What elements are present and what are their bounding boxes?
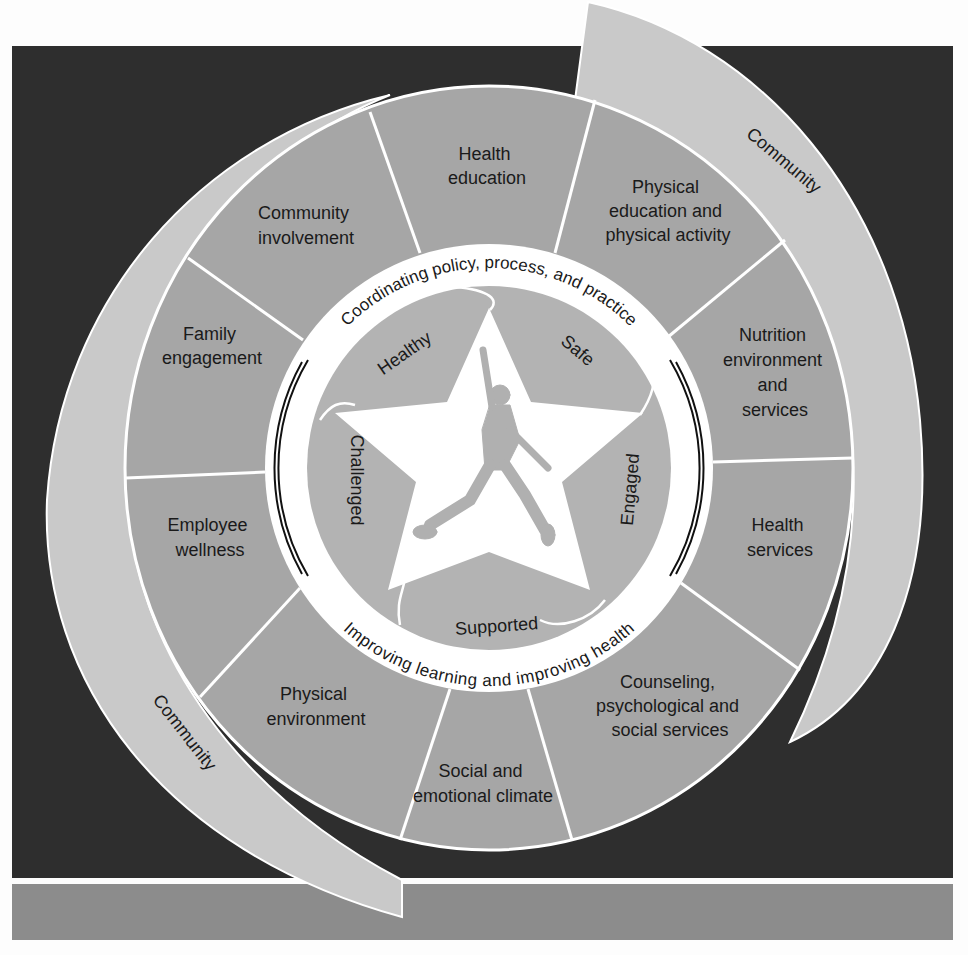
- tenet-challenged: Challenged: [347, 434, 367, 525]
- bottom-bar: [12, 884, 953, 940]
- wscc-model-diagram: Health education Physical education and …: [0, 0, 968, 955]
